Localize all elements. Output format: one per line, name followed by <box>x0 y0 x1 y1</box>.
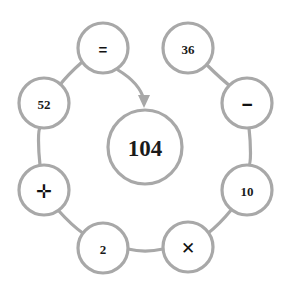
node-label-n52: 52 <box>38 97 51 112</box>
node-n52[interactable]: 52 <box>19 78 69 128</box>
arrow-head-icon <box>138 95 150 108</box>
diagram-canvas: 104=36−10✕2✛52 <box>0 0 289 291</box>
node-label-n36: 36 <box>182 42 196 57</box>
equals-to-result-arrow <box>118 70 150 108</box>
edge-times-to-n2 <box>128 249 163 251</box>
edge-n52-to-equals <box>59 63 81 86</box>
edge-plus-to-n52 <box>39 128 41 165</box>
node-n10[interactable]: 10 <box>222 165 272 215</box>
node-n36[interactable]: 36 <box>163 23 213 73</box>
operator-plus-icon: ✛ <box>36 181 52 202</box>
edge-n2-to-plus <box>58 210 84 234</box>
node-label-n10: 10 <box>241 184 254 199</box>
node-plus[interactable]: ✛ <box>19 165 69 215</box>
operator-equals-icon: = <box>99 41 108 58</box>
node-label-n2: 2 <box>100 242 107 257</box>
operator-times-icon: ✕ <box>181 239 195 258</box>
center-node[interactable]: 104 <box>108 110 182 184</box>
node-times[interactable]: ✕ <box>163 222 213 272</box>
edge-minus-to-n10 <box>249 128 251 165</box>
node-minus[interactable]: − <box>222 78 272 128</box>
node-equals[interactable]: = <box>78 23 128 73</box>
edge-n10-to-times <box>207 209 232 234</box>
center-node-label: 104 <box>128 136 163 161</box>
node-n2[interactable]: 2 <box>78 223 128 273</box>
operator-minus-icon: − <box>241 94 252 115</box>
equation-ring-diagram: 104=36−10✕2✛52 <box>0 0 289 291</box>
